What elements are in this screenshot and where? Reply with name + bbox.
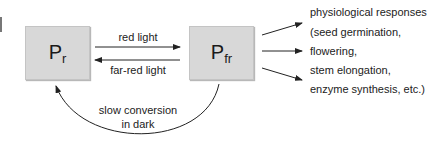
dark-conversion-label-line1: slow conversion <box>99 104 177 116</box>
dark-conversion-label-line2: in dark <box>121 118 154 130</box>
response-line: flowering, <box>310 45 357 57</box>
response-line: enzyme synthesis, etc.) <box>310 83 425 95</box>
response-arrow-up <box>262 23 302 35</box>
response-line: stem elongation, <box>310 64 391 76</box>
far-red-light-label: far-red light <box>110 64 166 76</box>
response-line: physiological responses <box>310 6 427 18</box>
red-light-label: red light <box>118 31 157 43</box>
response-line: (seed germination, <box>310 26 401 38</box>
response-arrow-down <box>262 68 302 80</box>
arrows-layer <box>0 0 441 156</box>
